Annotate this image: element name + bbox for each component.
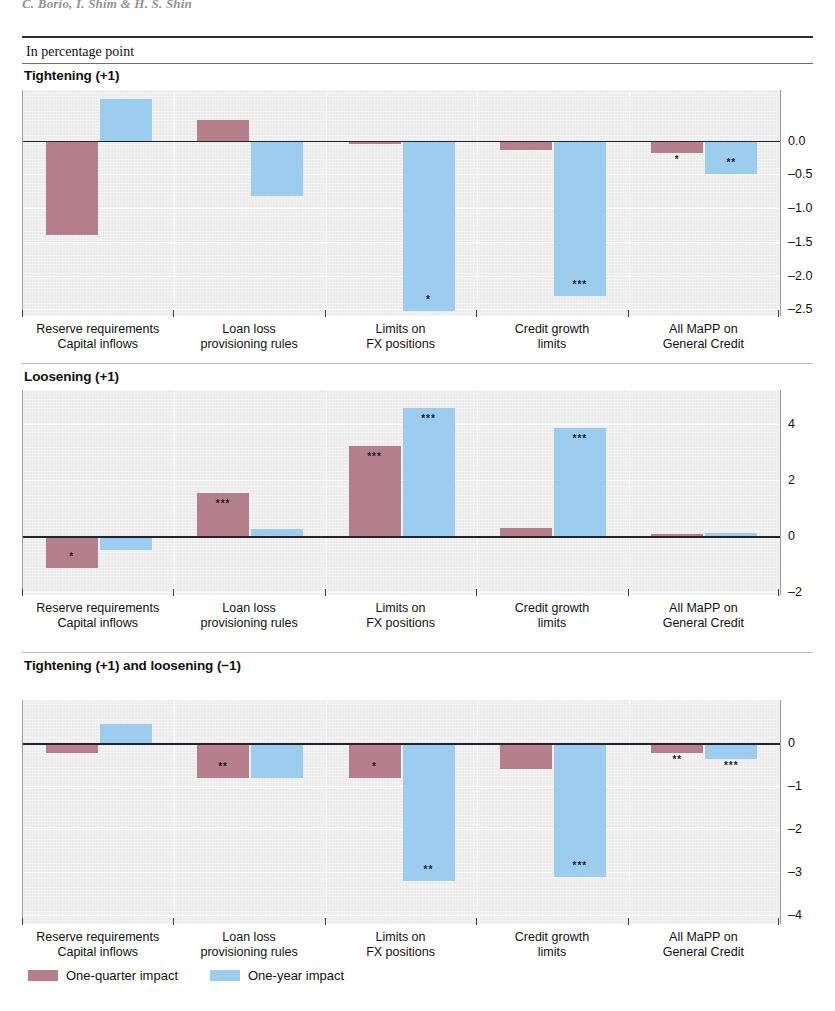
category-label-line: General Credit bbox=[628, 337, 779, 352]
category-label-line: FX positions bbox=[325, 337, 476, 352]
y-axis-tick-label: –2 bbox=[788, 822, 802, 836]
y-axis-tick-label: –1 bbox=[788, 779, 802, 793]
category-label-line: provisioning rules bbox=[173, 337, 324, 352]
y-axis-tick-label: –2 bbox=[788, 585, 802, 599]
category-label-line: General Credit bbox=[628, 945, 779, 960]
category-label-line: Limits on bbox=[325, 322, 476, 337]
significance-marker: *** bbox=[421, 413, 436, 424]
bar-one-quarter bbox=[500, 528, 552, 536]
panel-title-loosening: Loosening (+1) bbox=[24, 369, 119, 384]
x-axis-tick-mark bbox=[628, 310, 629, 317]
y-axis-tick-label: –1.0 bbox=[788, 201, 812, 215]
x-axis-category-label: Limits onFX positions bbox=[325, 322, 476, 352]
chart-panel-loosening: ************* bbox=[22, 390, 781, 595]
bar-one-year bbox=[403, 408, 455, 536]
x-axis-tick-mark bbox=[22, 310, 23, 317]
x-axis-category-row: Reserve requirementsCapital inflowsLoan … bbox=[22, 930, 779, 960]
y-axis-tick-label: 0 bbox=[788, 736, 795, 750]
x-axis-category-label: Limits onFX positions bbox=[325, 930, 476, 960]
significance-marker: ** bbox=[218, 761, 228, 772]
category-label-line: All MaPP on bbox=[628, 930, 779, 945]
bar-one-year bbox=[554, 428, 606, 536]
category-label-line: Capital inflows bbox=[22, 945, 173, 960]
x-axis-tick-mark bbox=[778, 589, 779, 596]
plot-texture bbox=[23, 390, 780, 595]
y-axis-tick-label: –3 bbox=[788, 865, 802, 879]
significance-marker: *** bbox=[573, 279, 588, 290]
category-label-line: FX positions bbox=[325, 945, 476, 960]
bar-one-year bbox=[554, 743, 606, 877]
x-axis-tick-mark bbox=[778, 918, 779, 925]
bar-one-year bbox=[251, 529, 303, 536]
category-label-line: provisioning rules bbox=[173, 616, 324, 631]
significance-marker: *** bbox=[573, 433, 588, 444]
significance-marker: *** bbox=[573, 860, 588, 871]
x-axis-category-label: Loan lossprovisioning rules bbox=[173, 601, 324, 631]
chart-panel-tightening: ******* bbox=[22, 90, 781, 316]
y-axis-tick-label: –2.5 bbox=[788, 302, 812, 316]
significance-marker: ** bbox=[424, 864, 434, 875]
x-axis-tick-mark bbox=[173, 589, 174, 596]
category-label-line: Reserve requirements bbox=[22, 322, 173, 337]
bar-one-year bbox=[251, 743, 303, 777]
significance-marker: ** bbox=[726, 157, 736, 168]
legend-item-one-quarter: One-quarter impact bbox=[28, 968, 178, 983]
header-rule-bottom bbox=[22, 63, 813, 64]
y-axis-tick-label: 4 bbox=[788, 417, 795, 431]
bar-one-quarter bbox=[46, 141, 98, 235]
gridline bbox=[23, 309, 780, 310]
legend-label-one-quarter: One-quarter impact bbox=[66, 968, 178, 983]
group-divider bbox=[477, 700, 478, 924]
significance-marker: ** bbox=[672, 754, 682, 765]
category-label-line: limits bbox=[476, 337, 627, 352]
x-axis-tick-mark bbox=[173, 310, 174, 317]
category-label-line: Capital inflows bbox=[22, 616, 173, 631]
panel-title-tightening: Tightening (+1) bbox=[24, 68, 119, 83]
x-axis-category-label: All MaPP onGeneral Credit bbox=[628, 601, 779, 631]
y-axis-tick-label: –0.5 bbox=[788, 167, 812, 181]
significance-marker: * bbox=[426, 294, 431, 305]
zero-axis-line bbox=[23, 743, 780, 745]
x-axis-tick-mark bbox=[476, 918, 477, 925]
category-label-line: limits bbox=[476, 945, 627, 960]
x-axis-tick-mark bbox=[22, 918, 23, 925]
bar-one-year bbox=[403, 141, 455, 311]
x-axis-category-label: Loan lossprovisioning rules bbox=[173, 322, 324, 352]
x-axis-category-label: Reserve requirementsCapital inflows bbox=[22, 322, 173, 352]
gridline bbox=[23, 276, 780, 277]
x-axis-category-label: Credit growthlimits bbox=[476, 322, 627, 352]
category-label-line: Loan loss bbox=[173, 322, 324, 337]
category-label-line: FX positions bbox=[325, 616, 476, 631]
gridline bbox=[23, 786, 780, 787]
x-axis-tick-mark bbox=[476, 589, 477, 596]
chart-legend: One-quarter impact One-year impact bbox=[28, 968, 366, 983]
y-axis-tick-label: –2.0 bbox=[788, 269, 812, 283]
y-axis-tick-label: –1.5 bbox=[788, 235, 812, 249]
gridline bbox=[23, 174, 780, 175]
gridline bbox=[23, 872, 780, 873]
panel-title-tightening-loosening: Tightening (+1) and loosening (−1) bbox=[24, 658, 241, 673]
zero-axis-line bbox=[23, 141, 780, 143]
x-axis-tick-mark bbox=[778, 310, 779, 317]
group-divider bbox=[477, 90, 478, 316]
x-axis-category-row: Reserve requirementsCapital inflowsLoan … bbox=[22, 601, 779, 631]
legend-item-one-year: One-year impact bbox=[210, 968, 344, 983]
bar-one-quarter bbox=[651, 141, 703, 154]
y-axis-tick-label: 0.0 bbox=[788, 134, 805, 148]
gridline bbox=[23, 829, 780, 830]
bar-one-year bbox=[403, 743, 455, 881]
bar-one-year bbox=[251, 141, 303, 196]
chart-panel-tightening-loosening: ************* bbox=[22, 700, 781, 924]
group-divider bbox=[174, 90, 175, 316]
group-divider bbox=[174, 700, 175, 924]
gridline bbox=[23, 208, 780, 209]
category-label-line: Credit growth bbox=[476, 930, 627, 945]
significance-marker: * bbox=[372, 761, 377, 772]
category-label-line: Reserve requirements bbox=[22, 930, 173, 945]
category-label-line: Credit growth bbox=[476, 322, 627, 337]
bar-one-year bbox=[100, 99, 152, 141]
bar-one-quarter bbox=[197, 120, 249, 140]
significance-marker: *** bbox=[724, 760, 739, 771]
x-axis-category-label: Reserve requirementsCapital inflows bbox=[22, 601, 173, 631]
panel-rule-1 bbox=[22, 363, 813, 364]
